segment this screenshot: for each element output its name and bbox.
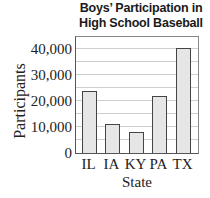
chart-title: Boys’ Participation in High School Baseb… [72, 1, 210, 31]
x-tick-label: IL [77, 156, 101, 172]
y-tick-label: 10,000 [31, 120, 72, 135]
x-tick-label: IA [100, 156, 124, 172]
x-axis-label: State [75, 174, 199, 191]
x-tick-label: TX [171, 156, 195, 172]
y-tick-label: 40,000 [31, 42, 72, 57]
x-tick-label: KY [124, 156, 148, 172]
y-tick-label: 0 [65, 146, 73, 161]
bar-il [82, 91, 97, 153]
chart-title-line-1: Boys’ Participation in [72, 1, 210, 16]
bar-tx [176, 48, 191, 153]
bar-ky [129, 132, 144, 153]
y-axis-label: Participants [11, 51, 29, 151]
y-tick-label: 20,000 [31, 94, 72, 109]
plot-area [75, 36, 199, 154]
bar-ia [105, 124, 120, 153]
chart-title-line-2: High School Baseball [72, 16, 210, 31]
bar-pa [152, 96, 167, 153]
x-tick-label: PA [147, 156, 171, 172]
y-tick-label: 30,000 [31, 68, 72, 83]
